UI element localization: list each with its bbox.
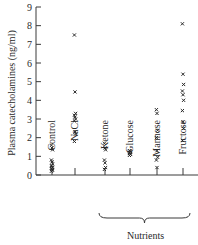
data-point-marker [155, 112, 158, 115]
category-label-control: Control [46, 120, 58, 180]
y-tick-label: 4 [27, 95, 32, 106]
y-tick-label: 6 [27, 58, 32, 69]
category-label-glucose: Glucose [124, 120, 136, 180]
category-label-nacl: NaCl [69, 120, 81, 180]
y-tick-label: 3 [27, 114, 32, 125]
y-tick-label: 8 [27, 20, 32, 31]
data-point-marker [182, 83, 185, 86]
nutrients-brace [99, 213, 190, 223]
data-point-marker [181, 73, 184, 76]
data-point-marker [155, 108, 158, 111]
data-point-marker [182, 99, 185, 102]
data-point-marker [73, 33, 76, 36]
data-point-marker [181, 22, 184, 25]
y-tick-label: 5 [27, 76, 32, 87]
category-label-mannose: Mannose [151, 120, 163, 180]
y-tick-label: 7 [27, 39, 32, 50]
data-point-marker [73, 90, 76, 93]
data-point-marker [181, 109, 184, 112]
nutrients-group-label: Nutrients [127, 230, 164, 241]
y-tick-label: 9 [27, 2, 32, 13]
category-label-fructose: Fructose [177, 120, 189, 180]
scatter-chart: 0123456789 Plasma catecholamines (ng/ml)… [0, 0, 198, 245]
y-tick-label: 1 [27, 151, 32, 162]
data-point-marker [181, 93, 184, 96]
y-axis-label: Plasma catecholamines (ng/ml) [6, 18, 20, 168]
category-label-ketone: Ketone [99, 120, 111, 180]
y-tick-label: 2 [27, 132, 32, 143]
y-tick-label: 0 [27, 170, 32, 181]
data-point-marker [181, 89, 184, 92]
